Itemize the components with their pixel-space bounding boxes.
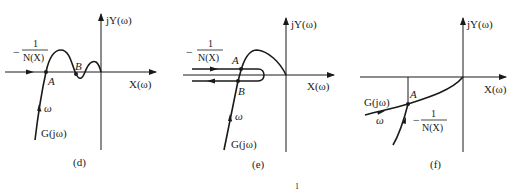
y-axis-label: jY(ω): [290, 18, 317, 31]
point-b-label: B: [238, 85, 245, 97]
describing-function-arrow-icon: [26, 70, 34, 75]
x-axis-label: X(ω): [307, 80, 330, 93]
page-number-fragment: 1: [295, 182, 299, 191]
point-a-label: A: [409, 88, 417, 100]
omega-label: ω: [376, 114, 384, 126]
panel-caption: (d): [73, 156, 86, 169]
omega-label: ω: [235, 110, 243, 122]
point-b: [74, 72, 78, 76]
panel-d: A B jY(ω) X(ω) ω G(jω) − 1 N(X) (d): [5, 14, 156, 169]
point-a: [239, 67, 243, 71]
panel-caption: (e): [252, 158, 265, 171]
svg-text:N(X): N(X): [422, 122, 443, 134]
panel-e: A B jY(ω) X(ω) ω G(jω) − 1 N(X) (e) 1: [183, 18, 334, 191]
svg-text:1: 1: [208, 38, 213, 49]
loop-arrow-left-icon: [207, 79, 215, 84]
svg-text:N(X): N(X): [198, 52, 219, 64]
x-axis-label: X(ω): [484, 83, 507, 96]
y-axis-label: jY(ω): [466, 18, 493, 31]
y-axis-label: jY(ω): [105, 14, 132, 27]
svg-text:−: −: [13, 45, 20, 59]
curve-label: G(jω): [41, 127, 67, 140]
describing-function-curve: [393, 104, 408, 145]
loop-arrow-right-icon: [210, 67, 218, 72]
omega-direction-arrow-icon: [37, 104, 41, 112]
svg-text:1: 1: [33, 38, 38, 49]
point-b: [236, 79, 240, 83]
point-a-label: A: [231, 54, 239, 66]
svg-text:N(X): N(X): [23, 52, 44, 64]
svg-text:−: −: [413, 113, 420, 127]
point-b-label: B: [75, 60, 82, 72]
panel-caption: (f): [430, 158, 441, 171]
nyquist-figure: A B jY(ω) X(ω) ω G(jω) − 1 N(X) (d) A B …: [0, 0, 513, 191]
point-a: [406, 102, 410, 106]
point-a: [44, 70, 48, 74]
svg-text:−: −: [186, 45, 193, 59]
describing-function-label: − 1 N(X): [13, 38, 48, 64]
curve-label: G(jω): [364, 96, 390, 109]
x-axis-label: X(ω): [129, 78, 152, 91]
panel-f: A jY(ω) X(ω) G(jω) ω − 1 N(X) (f): [360, 18, 507, 171]
point-a-label: A: [47, 75, 55, 87]
describing-function-label: − 1 N(X): [186, 38, 223, 64]
describing-function-label: − 1 N(X): [413, 108, 447, 134]
omega-label: ω: [44, 102, 52, 114]
svg-text:1: 1: [431, 108, 436, 119]
curve-label: G(jω): [231, 138, 257, 151]
